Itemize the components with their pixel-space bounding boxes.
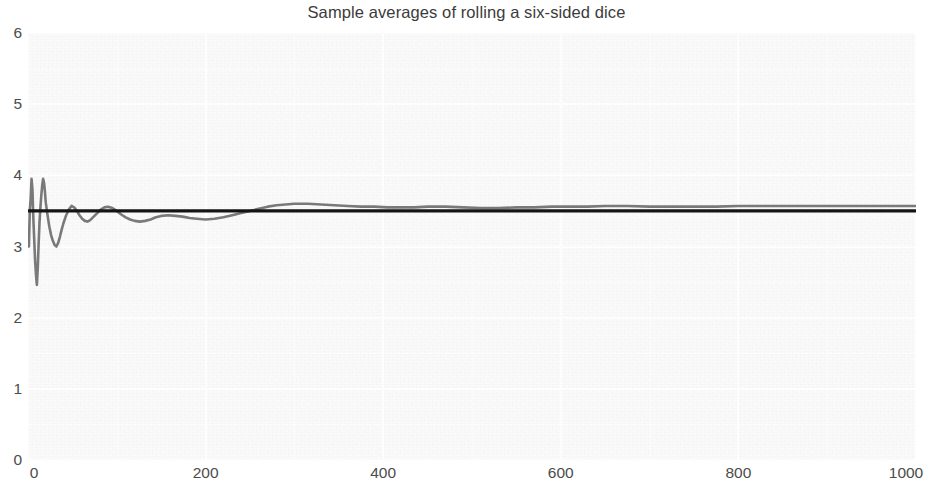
y-tick-label-1: 1 xyxy=(0,381,22,397)
x-tick-label-800: 800 xyxy=(725,465,751,481)
x-tick-label-0: 0 xyxy=(30,465,39,481)
chart-title: Sample averages of rolling a six-sided d… xyxy=(0,3,933,22)
running-average-line xyxy=(29,179,916,285)
y-tick-label-6: 6 xyxy=(0,25,22,41)
y-tick-label-4: 4 xyxy=(0,167,22,183)
x-tick-label-600: 600 xyxy=(548,465,574,481)
chart-plot-area xyxy=(28,33,916,460)
y-tick-label-3: 3 xyxy=(0,239,22,255)
plot-panel xyxy=(28,33,916,460)
x-tick-label-400: 400 xyxy=(370,465,396,481)
x-tick-label-1000: 1000 xyxy=(889,465,923,481)
x-tick-label-200: 200 xyxy=(193,465,219,481)
y-tick-label-5: 5 xyxy=(0,96,22,112)
chart-figure: Sample averages of rolling a six-sided d… xyxy=(0,0,933,485)
y-tick-label-0: 0 xyxy=(0,452,22,468)
y-tick-label-2: 2 xyxy=(0,310,22,326)
